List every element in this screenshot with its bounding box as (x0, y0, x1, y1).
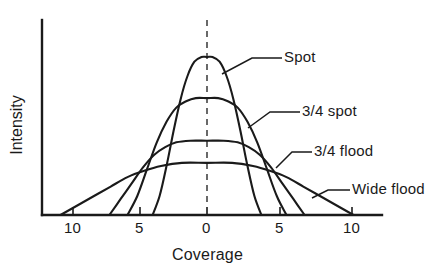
leader-line-three-quarter-spot (248, 112, 300, 128)
x-tick-label-minus10: 10 (64, 219, 81, 236)
chart-plot-area (0, 0, 432, 280)
series-label-wide-flood: Wide flood (352, 180, 425, 197)
series-label-three-quarter-flood: 3/4 flood (314, 142, 373, 159)
intensity-coverage-chart: Intensity 10 5 0 5 10 Coverage Spot 3/4 … (0, 0, 432, 280)
x-tick-label-minus5: 5 (135, 219, 144, 236)
leader-line-spot (222, 58, 282, 74)
series-label-spot: Spot (284, 48, 316, 65)
x-tick-label-zero: 0 (202, 219, 211, 236)
y-axis-title: Intensity (8, 95, 26, 155)
x-tick-label-plus5: 5 (275, 219, 284, 236)
series-label-three-quarter-spot: 3/4 spot (302, 102, 357, 119)
leader-line-three-quarter-flood (276, 152, 312, 168)
x-tick-label-plus10: 10 (343, 219, 360, 236)
x-axis-title: Coverage (172, 246, 243, 264)
y-axis-title-wrapper: Intensity (6, 70, 28, 180)
